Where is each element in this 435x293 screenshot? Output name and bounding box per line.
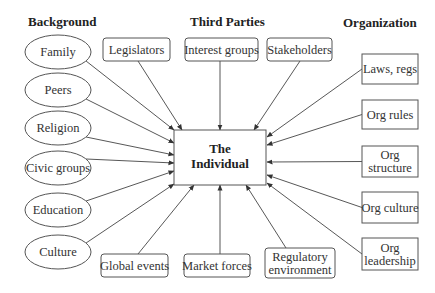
node-label: Global events xyxy=(100,259,169,273)
node-label: Org culture xyxy=(361,201,418,215)
center-node: The Individual xyxy=(174,130,266,185)
node-label: Laws, regs xyxy=(363,62,417,76)
center-label-line1: The xyxy=(209,141,231,156)
arrow-civic-groups xyxy=(86,159,174,163)
node-label: environment xyxy=(268,263,332,277)
arrow-culture xyxy=(86,184,174,243)
organization-node-org-rules: Org rules xyxy=(362,100,418,129)
header-background: Background xyxy=(28,14,97,29)
node-label: Org xyxy=(380,241,400,255)
arrow-regulatory-environment xyxy=(246,185,286,248)
arrow-education xyxy=(86,171,174,201)
arrow-religion xyxy=(86,137,174,155)
header-organization: Organization xyxy=(343,15,417,30)
node-label: Org rules xyxy=(367,108,414,122)
background-node-peers: Peers xyxy=(25,73,91,107)
third-party-node-interest-groups: Interest groups xyxy=(184,38,259,61)
arrow-global-events xyxy=(138,185,194,254)
background-node-education: Education xyxy=(25,193,91,227)
arrow-peers xyxy=(86,99,174,143)
arrow-org-culture xyxy=(267,175,362,208)
node-label: Legislators xyxy=(109,43,165,57)
node-label: Education xyxy=(33,203,84,217)
arrow-laws-regs xyxy=(267,69,362,137)
node-label: Culture xyxy=(39,245,77,259)
third-party-node-legislators: Legislators xyxy=(103,38,170,61)
background-node-family: Family xyxy=(25,35,91,69)
node-label: Civic groups xyxy=(26,161,90,175)
node-label: Stakeholders xyxy=(267,43,332,57)
node-label: Religion xyxy=(36,121,80,135)
node-label: Org xyxy=(380,148,400,162)
arrow-org-rules xyxy=(267,115,362,146)
arrow-legislators xyxy=(138,61,182,130)
node-label: Family xyxy=(40,45,76,59)
node-label: leadership xyxy=(364,254,415,268)
background-node-civic-groups: Civic groups xyxy=(25,151,91,185)
arrow-org-leadership xyxy=(267,183,362,254)
organization-node-laws-regs: Laws, regs xyxy=(362,54,418,84)
arrow-stakeholders xyxy=(254,61,300,130)
node-label: Interest groups xyxy=(184,43,259,57)
arrow-org-structure xyxy=(267,162,362,163)
third-party-node-market-forces: Market forces xyxy=(182,254,252,277)
third-party-node-global-events: Global events xyxy=(100,254,169,277)
organization-node-org-culture: Org culture xyxy=(361,192,418,223)
influence-diagram: Background Third Parties Organization Fa… xyxy=(0,0,435,293)
node-label: Market forces xyxy=(182,259,252,273)
node-label: Regulatory xyxy=(272,250,328,264)
node-label: structure xyxy=(368,161,412,175)
node-label: Peers xyxy=(44,83,71,97)
center-label-line2: Individual xyxy=(191,156,249,171)
organization-node-org-structure: Orgstructure xyxy=(362,146,418,177)
organization-node-org-leadership: Orgleadership xyxy=(362,238,418,270)
background-node-religion: Religion xyxy=(25,111,91,145)
header-third-parties: Third Parties xyxy=(190,14,265,29)
third-party-node-regulatory-environment: Regulatoryenvironment xyxy=(265,248,335,278)
background-node-culture: Culture xyxy=(25,235,91,269)
arrow-family xyxy=(86,61,174,130)
third-party-node-stakeholders: Stakeholders xyxy=(267,38,332,61)
